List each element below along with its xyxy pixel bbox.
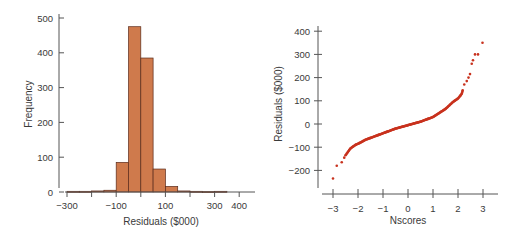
npp-points — [332, 42, 484, 180]
data-point — [465, 80, 468, 83]
y-tick-label: 500 — [37, 13, 53, 24]
y-tick-label: 100 — [294, 95, 310, 106]
npp-x-ticks: −3−2−10123 — [328, 189, 486, 214]
histogram-bar — [116, 162, 128, 192]
y-tick-label: 0 — [305, 119, 310, 130]
y-tick-label: 0 — [48, 187, 53, 198]
histogram-bar — [129, 27, 141, 192]
x-tick-label: 3 — [480, 203, 485, 214]
histogram-x-axis-label: Residuals ($000) — [123, 216, 199, 227]
x-tick-label: 100 — [157, 200, 173, 211]
x-tick-label: −2 — [353, 203, 364, 214]
npp-x-axis-label: Nscores — [390, 215, 427, 226]
data-point — [474, 53, 477, 56]
residuals-histogram: 0100200300400500 −300−100100300400 Resid… — [23, 13, 255, 228]
y-tick-label: −100 — [289, 142, 310, 153]
y-tick-label: −200 — [289, 165, 310, 176]
data-point — [470, 62, 473, 65]
x-tick-label: −300 — [56, 200, 77, 211]
data-point — [481, 42, 484, 45]
data-point — [343, 156, 346, 159]
data-point — [467, 76, 470, 79]
data-point — [477, 53, 480, 56]
data-point — [332, 177, 335, 180]
y-tick-label: 200 — [294, 72, 310, 83]
y-tick-label: 300 — [294, 49, 310, 60]
npp-y-ticks: −200−1000100200300400 — [289, 26, 322, 176]
histogram-x-ticks: −300−100100300400 — [56, 192, 247, 211]
data-point — [463, 83, 466, 86]
data-point — [461, 89, 464, 92]
histogram-y-axis-label: Frequency — [23, 80, 34, 127]
x-tick-label: −100 — [105, 200, 126, 211]
y-tick-label: 100 — [37, 152, 53, 163]
histogram-bar — [153, 169, 165, 192]
y-tick-label: 300 — [37, 82, 53, 93]
x-tick-label: 0 — [405, 203, 410, 214]
histogram-bars — [67, 27, 227, 193]
histogram-bar — [141, 58, 153, 192]
y-tick-label: 400 — [294, 26, 310, 37]
figure: 0100200300400500 −300−100100300400 Resid… — [0, 0, 519, 236]
histogram-y-ticks: 0100200300400500 — [37, 13, 64, 198]
x-tick-label: 300 — [207, 200, 223, 211]
x-tick-label: 1 — [430, 203, 435, 214]
x-tick-label: −3 — [328, 203, 339, 214]
data-point — [472, 59, 475, 62]
histogram-bar — [165, 186, 177, 192]
normal-probability-plot: −200−1000100200300400 −3−2−10123 Nscores… — [273, 26, 498, 226]
x-tick-label: 400 — [231, 200, 247, 211]
npp-y-axis-label: Residuals ($000) — [273, 66, 284, 142]
y-tick-label: 200 — [37, 117, 53, 128]
data-point — [340, 161, 343, 164]
data-point — [335, 164, 338, 167]
x-tick-label: −1 — [378, 203, 389, 214]
x-tick-label: 2 — [455, 203, 460, 214]
y-tick-label: 400 — [37, 47, 53, 58]
data-point — [469, 73, 472, 76]
